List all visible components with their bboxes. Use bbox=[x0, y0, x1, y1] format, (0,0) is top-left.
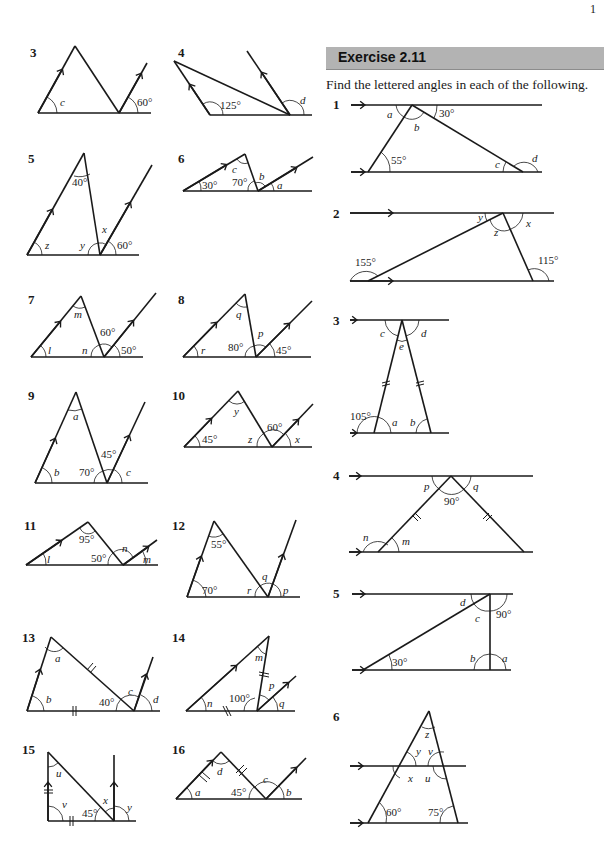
label-45: 45° bbox=[202, 433, 217, 445]
label-p: p bbox=[257, 327, 264, 339]
figure-q6: 30° 70° c b a bbox=[183, 154, 313, 191]
label-100: 100° bbox=[229, 692, 250, 704]
label-m: m bbox=[74, 308, 82, 320]
label-70: 70° bbox=[202, 584, 217, 596]
label-x: x bbox=[101, 223, 107, 235]
label-y: y bbox=[415, 745, 421, 757]
label-z: z bbox=[493, 226, 499, 238]
label-n: n bbox=[122, 542, 128, 554]
label-v: v bbox=[62, 798, 67, 810]
label-30: 30° bbox=[202, 179, 217, 191]
figure-q13: a b 40° c d bbox=[27, 637, 160, 716]
figure-q14: m n 100° p q bbox=[186, 636, 296, 716]
label-a: a bbox=[502, 652, 508, 664]
label-70: 70° bbox=[232, 176, 247, 188]
label-a: a bbox=[195, 786, 201, 798]
label-a: a bbox=[392, 416, 398, 428]
label-30: 30° bbox=[439, 107, 454, 119]
label-x: x bbox=[407, 772, 413, 784]
label-y: y bbox=[233, 405, 239, 417]
label-c: c bbox=[380, 327, 385, 339]
figure-q4: 125° d bbox=[174, 51, 312, 115]
label-40: 40° bbox=[72, 176, 87, 188]
label-c: c bbox=[128, 685, 133, 697]
label-60: 60° bbox=[386, 806, 401, 818]
label-m: m bbox=[143, 553, 151, 565]
label-90: 90° bbox=[444, 495, 459, 507]
label-a: a bbox=[387, 108, 393, 120]
label-45: 45° bbox=[276, 344, 291, 356]
label-q: q bbox=[262, 570, 268, 582]
figure-r5: d c 90° 30° b a bbox=[352, 594, 513, 670]
label-90: 90° bbox=[496, 608, 511, 620]
label-p: p bbox=[268, 679, 275, 691]
figure-q9: a b 70° 45° c bbox=[35, 392, 148, 483]
label-60: 60° bbox=[100, 326, 115, 338]
label-p: p bbox=[282, 584, 289, 596]
label-e: e bbox=[399, 340, 404, 352]
label-45: 45° bbox=[101, 448, 116, 460]
figure-r1: a b 30° 55° c d bbox=[351, 105, 542, 172]
label-45: 45° bbox=[82, 807, 97, 819]
label-c: c bbox=[495, 158, 500, 170]
label-q: q bbox=[236, 308, 242, 320]
label-l: l bbox=[48, 344, 51, 356]
label-d: d bbox=[153, 693, 159, 705]
label-d: d bbox=[421, 327, 427, 339]
label-r: r bbox=[247, 584, 252, 596]
label-z: z bbox=[44, 239, 50, 251]
figure-q8: r q 80° p 45° bbox=[183, 294, 312, 357]
label-z: z bbox=[247, 433, 253, 445]
label-c: c bbox=[232, 163, 237, 175]
figure-q12: 55° 70° r q p bbox=[187, 520, 300, 597]
label-d: d bbox=[217, 765, 223, 777]
label-d: d bbox=[460, 596, 466, 608]
figure-q15: u v 45° x y bbox=[44, 752, 136, 826]
label-a: a bbox=[55, 652, 61, 664]
figure-q3: c 60° bbox=[38, 46, 152, 113]
label-a: a bbox=[277, 179, 283, 191]
label-b: b bbox=[286, 786, 292, 798]
label-b: b bbox=[46, 693, 52, 705]
label-60: 60° bbox=[117, 239, 132, 251]
figure-q7: l m n 60° 50° bbox=[31, 293, 156, 357]
label-x: x bbox=[525, 217, 531, 229]
label-50: 50° bbox=[121, 344, 136, 356]
label-60: 60° bbox=[137, 96, 152, 108]
figure-r3: c e d 105° a b bbox=[350, 320, 449, 433]
label-y: y bbox=[126, 801, 132, 813]
label-c: c bbox=[263, 773, 268, 785]
label-b: b bbox=[414, 121, 420, 133]
label-45: 45° bbox=[231, 786, 246, 798]
label-v: v bbox=[428, 745, 433, 757]
label-m: m bbox=[255, 651, 263, 663]
label-m: m bbox=[402, 535, 410, 547]
figure-q5: 40° z y x 60° bbox=[27, 153, 152, 255]
figure-r6: z y v x u 60° 75° bbox=[350, 711, 468, 823]
label-u: u bbox=[56, 767, 62, 779]
label-30: 30° bbox=[392, 656, 407, 668]
label-105: 105° bbox=[350, 410, 371, 422]
label-60: 60° bbox=[267, 421, 282, 433]
label-n: n bbox=[207, 697, 213, 709]
label-x: x bbox=[294, 433, 300, 445]
geometry-figures: c 60° 125° d 40° z y x 60° bbox=[0, 0, 604, 848]
label-155: 155° bbox=[355, 256, 376, 268]
label-u: u bbox=[425, 772, 431, 784]
label-c: c bbox=[126, 466, 131, 478]
label-b: b bbox=[54, 466, 60, 478]
label-80: 80° bbox=[228, 341, 243, 353]
figure-q16: a d 45° c b bbox=[176, 752, 306, 799]
label-40: 40° bbox=[99, 696, 114, 708]
label-z: z bbox=[424, 728, 430, 740]
label-l: l bbox=[47, 553, 50, 565]
label-125: 125° bbox=[220, 99, 241, 111]
label-b: b bbox=[259, 170, 265, 182]
figure-q10: 45° y z 60° x bbox=[184, 391, 313, 447]
label-d: d bbox=[300, 94, 306, 106]
label-q: q bbox=[279, 697, 285, 709]
label-n: n bbox=[82, 344, 88, 356]
label-b: b bbox=[410, 416, 416, 428]
label-55: 55° bbox=[391, 154, 406, 166]
label-55: 55° bbox=[211, 538, 226, 550]
